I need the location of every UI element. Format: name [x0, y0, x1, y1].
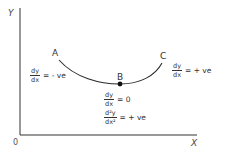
second-derivative-equation: d²y dx² = + ve — [104, 110, 146, 125]
point-b-label: B — [117, 73, 123, 82]
right-slope-denominator: dx — [173, 71, 181, 78]
first-derivative-denominator: dx — [105, 100, 113, 107]
point-b-marker — [118, 82, 123, 87]
first-derivative-value: = 0 — [117, 95, 130, 104]
first-derivative-equation: dy dx = 0 — [104, 92, 130, 107]
right-slope-value: = + ve — [185, 66, 211, 75]
x-axis-label: X — [191, 139, 197, 148]
right-slope-numerator: dy — [172, 63, 182, 71]
first-derivative-numerator: dy — [104, 92, 114, 100]
second-derivative-value: = + ve — [120, 113, 146, 122]
second-derivative-denominator: dx² — [105, 118, 116, 125]
y-axis-label: Y — [8, 9, 14, 18]
left-slope-denominator: dx — [31, 76, 39, 83]
left-slope-equation: dy dx = - ve — [30, 68, 66, 83]
right-slope-equation: dy dx = + ve — [172, 63, 211, 78]
second-derivative-numerator: d²y — [104, 110, 117, 118]
origin-label: 0 — [13, 139, 18, 147]
point-a-label: A — [52, 49, 58, 58]
left-slope-numerator: dy — [30, 68, 40, 76]
point-c-label: C — [160, 52, 166, 61]
minimum-curve — [59, 60, 162, 84]
left-slope-value: = - ve — [43, 71, 66, 80]
